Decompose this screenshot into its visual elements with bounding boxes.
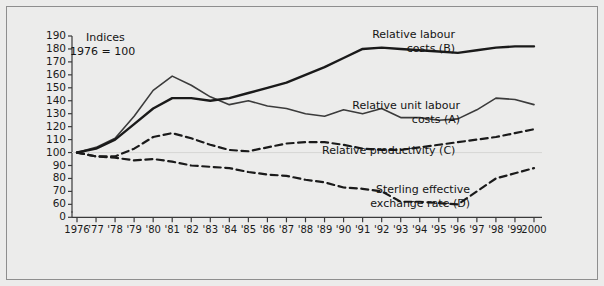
y-tick-label: 180: [22, 43, 66, 54]
series-label-C: Relative productivity (C): [322, 144, 455, 158]
chart-caption-line1: Indices: [86, 31, 125, 45]
y-tick-label: 70: [22, 185, 66, 196]
y-tick-label: 90: [22, 160, 66, 171]
y-tick-label: 100: [22, 147, 66, 158]
y-tick-label: 120: [22, 121, 66, 132]
chart-page: Indices 1976 = 100 Relative labour costs…: [0, 0, 604, 286]
y-tick-label: 140: [22, 95, 66, 106]
axis-group: [72, 36, 542, 217]
x-axis-ticks: [77, 217, 534, 222]
series-label-A-line1: Relative unit labour: [300, 99, 460, 113]
y-tick-label: 160: [22, 69, 66, 80]
y-tick-label: 0: [22, 211, 66, 222]
y-tick-label: 80: [22, 172, 66, 183]
series-label-A-line2: costs (A): [300, 113, 460, 127]
y-tick-label: 170: [22, 56, 66, 67]
series-label-D-line2: exchange rate (D): [330, 197, 470, 211]
y-tick-label: 190: [22, 30, 66, 41]
series-label-D-line1: Sterling effective: [330, 183, 470, 197]
y-tick-label: 60: [22, 198, 66, 209]
y-tick-label: 110: [22, 134, 66, 145]
chart-caption-line2: 1976 = 100: [70, 45, 135, 59]
y-tick-label: 130: [22, 108, 66, 119]
x-tick-label: 2000: [517, 224, 551, 235]
series-label-B-line1: Relative labour: [315, 28, 455, 42]
series-label-B-line2: costs (B): [315, 42, 455, 56]
y-tick-label: 150: [22, 82, 66, 93]
